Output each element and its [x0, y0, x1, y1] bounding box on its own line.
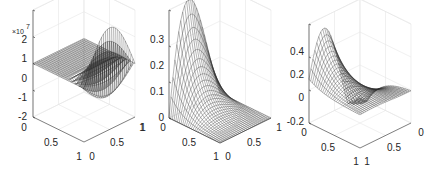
mesh-line-v: [210, 58, 261, 123]
plot-2-x-tick: 0: [160, 122, 166, 133]
plot-1-x-tick: 1: [76, 151, 82, 162]
z-gridline: [33, 92, 135, 117]
plot-3-y-tick: 0.5: [387, 142, 401, 153]
plot-3-z-tick: -0.2: [287, 116, 305, 127]
plot-2-z-tick: 0.2: [150, 60, 164, 71]
plot-3-z-tick: 0.4: [290, 46, 304, 57]
plot-3-grid: [309, 0, 411, 136]
plot-1-y-tick: 0.5: [110, 137, 124, 148]
plot-3-z-tick: 0.2: [290, 69, 304, 80]
plot-2-x-tick: 0.5: [182, 137, 196, 148]
plot-3-x-tick: 1: [353, 156, 359, 167]
plot-2-stray-tick: 1: [140, 122, 146, 133]
mesh-line-v: [196, 8, 247, 130]
plot-1: ×10 7 2 1 0 -1 -2 0 0.5 1 0 0.5 1: [12, 0, 145, 162]
plot-1-z-tick: -2: [18, 111, 27, 122]
plot-2-z-tick: 0.1: [150, 86, 164, 97]
mesh-line-v: [204, 34, 255, 125]
plot-3-x-tick: 0.5: [321, 142, 335, 153]
plot-2: 0.3 0.2 0.1 0 1 0 0.5 1 0 0.5 1: [140, 0, 282, 162]
plot-3-y-tick: 1: [364, 156, 370, 167]
plot-1-z-tick: -1: [18, 92, 27, 103]
plot-1-z-tick: 0: [21, 73, 27, 84]
plot-3: 0.4 0.2 0 -0.2 0 0.5 1 1 0.5 0: [287, 0, 424, 167]
plot-2-x-tick: 1: [213, 151, 219, 162]
plot-2-y-tick: 0: [225, 151, 231, 162]
mesh-line-v: [179, 31, 230, 138]
plot-3-x-tick: 0: [301, 127, 307, 138]
plot-1-z-exponent: 7: [26, 23, 30, 30]
back-floor-edges: [33, 92, 135, 117]
plot-1-z-tick: 2: [21, 34, 27, 45]
plot-3-z-tick: 0: [298, 92, 304, 103]
plot-1-y-tick: 0: [89, 151, 95, 162]
plot-1-x-tick: 0.5: [44, 137, 58, 148]
plot-1-z-tick: 1: [21, 53, 27, 64]
plot-3-y-tick: 0: [418, 127, 424, 138]
surface-plots: ×10 7 2 1 0 -1 -2 0 0.5 1 0 0.5 1 0.3 0.…: [0, 0, 437, 172]
plot-2-z-tick: 0.3: [150, 34, 164, 45]
plot-1-x-tick: 0: [21, 122, 27, 133]
plot-2-y-tick: 1: [276, 122, 282, 133]
plot-2-y-tick: 0.5: [247, 137, 261, 148]
